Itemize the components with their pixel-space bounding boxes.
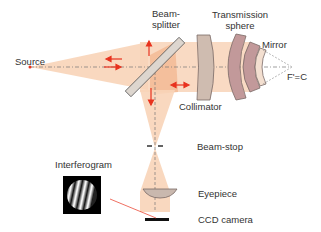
label-focus: F'=C bbox=[287, 71, 307, 82]
focus-ray-top bbox=[263, 50, 292, 67]
label-mirror: Mirror bbox=[262, 39, 287, 50]
label-beam-splitter-1: Beam- bbox=[146, 8, 186, 19]
label-transmission-sphere-1: Transmission bbox=[207, 9, 273, 20]
reflected-beam bbox=[140, 90, 175, 148]
label-source: Source bbox=[15, 56, 45, 67]
label-ccd-camera: CCD camera bbox=[198, 214, 253, 225]
label-interferogram: Interferogram bbox=[55, 159, 112, 170]
label-transmission-sphere-2: sphere bbox=[207, 20, 273, 31]
collimator-lens bbox=[197, 35, 214, 100]
label-collimator: Collimator bbox=[179, 101, 222, 112]
source-beam bbox=[30, 42, 148, 90]
label-beam-stop: Beam-stop bbox=[197, 141, 243, 152]
label-beam-splitter-2: splitter bbox=[146, 19, 186, 30]
label-eyepiece: Eyepiece bbox=[198, 188, 237, 199]
interferogram-image bbox=[47, 176, 104, 216]
interferometer-diagram: Source Beam- splitter Transmission spher… bbox=[0, 0, 321, 232]
ccd-camera bbox=[145, 218, 169, 221]
